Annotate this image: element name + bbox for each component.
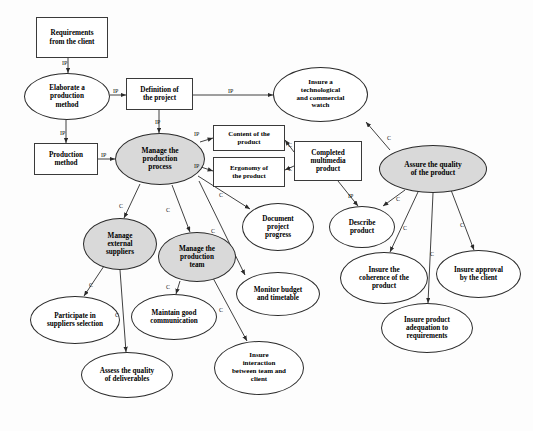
edge-label-manage-process-to-document-progress: C <box>219 192 223 198</box>
node-label: Monitor budget and timetable <box>251 286 305 302</box>
edge-manage-process-to-manage-team <box>172 185 190 232</box>
node-manage-suppliers[interactable]: Manage external suppliers <box>83 218 157 270</box>
node-maintain-comm[interactable]: Maintain good communication <box>131 294 217 340</box>
node-describe-product[interactable]: Describe product <box>329 206 395 248</box>
node-content-product[interactable]: Content of the product <box>213 125 285 151</box>
node-requirements[interactable]: Requirements from the client <box>36 17 108 58</box>
edge-label-production-method-to-manage-process: IP <box>101 152 106 158</box>
node-label: Insure a technological and commercial wa… <box>294 79 348 110</box>
edge-label-manage-process-to-manage-suppliers: C <box>119 203 123 209</box>
node-label: Manage the production process <box>138 147 181 172</box>
diagram-canvas: Requirements from the clientElaborate a … <box>0 0 533 431</box>
edge-assure-quality-to-insure-approval <box>451 190 474 250</box>
edge-label-definition-to-insure-watch: IP <box>228 88 233 94</box>
node-elaborate[interactable]: Elaborate a production method <box>24 73 110 120</box>
edge-label-manage-team-to-maintain-comm: C <box>166 284 170 290</box>
edge-manage-process-to-ergonomy-product <box>201 167 213 171</box>
node-label: Insure interaction between team and clie… <box>229 352 289 383</box>
node-assure-quality[interactable]: Assure the quality of the product <box>379 145 487 193</box>
node-label: Assess the quality of deliverables <box>97 367 157 383</box>
edge-label-assure-quality-to-describe-product: C <box>396 196 400 202</box>
node-insure-adequation[interactable]: Insure product adequation to requirement… <box>381 303 473 353</box>
edge-assure-quality-to-describe-product <box>383 190 405 206</box>
edge-label-manage-process-to-ergonomy-product: IP <box>194 163 199 169</box>
node-completed-product[interactable]: Completed multimedia product <box>294 141 362 181</box>
node-manage-team[interactable]: Manage the production team <box>158 232 236 282</box>
edge-label-manage-team-to-insure-interaction: C <box>219 307 223 313</box>
edge-label-assure-quality-to-insure-watch: C <box>387 135 391 141</box>
edge-label-manage-suppliers-to-assess-quality: C <box>115 312 119 318</box>
node-label: Content of the product <box>225 130 273 145</box>
node-production-method[interactable]: Production method <box>34 143 98 175</box>
node-label: Production method <box>46 151 86 167</box>
node-insure-interaction[interactable]: Insure interaction between team and clie… <box>214 341 304 395</box>
node-label: Insure the coherence of the product <box>356 266 412 290</box>
node-label: Ergonomy of the product <box>227 164 271 179</box>
edge-label-requirements-to-elaborate: IP <box>62 60 67 66</box>
node-insure-approval[interactable]: Insure approval by the client <box>436 250 521 298</box>
edge-manage-suppliers-to-assess-quality <box>120 270 126 352</box>
node-label: Definition of the project <box>137 86 182 102</box>
node-label: Completed multimedia product <box>307 149 348 173</box>
edge-label-manage-process-to-manage-team: C <box>166 207 170 213</box>
edge-manage-process-to-manage-suppliers <box>124 184 140 218</box>
node-label: Insure approval by the client <box>451 266 506 282</box>
edge-label-assure-quality-to-insure-approval: C <box>460 222 464 228</box>
edge-label-elaborate-to-production-method: IP <box>60 130 65 136</box>
node-definition[interactable]: Definition of the project <box>126 78 193 110</box>
node-participate[interactable]: Participate in suppliers selection <box>30 296 120 344</box>
node-ergonomy-product[interactable]: Ergonomy of the product <box>213 157 285 187</box>
node-assess-quality[interactable]: Assess the quality of deliverables <box>81 352 173 398</box>
node-manage-process[interactable]: Manage the production process <box>115 133 205 185</box>
edge-label-elaborate-to-definition: IP <box>113 88 118 94</box>
node-label: Insure product adequation to requirement… <box>401 316 453 340</box>
edge-label-assure-quality-to-insure-adequation: C <box>430 251 434 257</box>
edge-label-completed-product-to-describe-product: IP <box>348 193 353 199</box>
node-label: Manage external suppliers <box>103 232 137 256</box>
node-document-progress[interactable]: Document project progress <box>242 203 314 251</box>
edge-assure-quality-to-insure-adequation <box>428 193 433 303</box>
node-label: Document project progress <box>259 215 297 239</box>
edge-label-manage-process-to-monitor-budget: C <box>211 228 215 234</box>
node-insure-watch[interactable]: Insure a technological and commercial wa… <box>273 67 368 122</box>
node-monitor-budget[interactable]: Monitor budget and timetable <box>236 272 320 316</box>
node-label: Requirements from the client <box>47 29 98 45</box>
edge-label-manage-process-to-content-product: IP <box>194 131 199 137</box>
node-label: Participate in suppliers selection <box>44 312 106 328</box>
edge-label-assure-quality-to-insure-coherence: C <box>403 225 407 231</box>
edge-label-completed-product-to-ergonomy-product: C <box>288 166 292 172</box>
edge-label-completed-product-to-content-product: C <box>288 142 292 148</box>
edge-manage-team-to-maintain-comm <box>176 281 180 294</box>
edge-label-definition-to-manage-process: IP <box>155 119 160 125</box>
node-label: Maintain good communication <box>147 309 201 325</box>
node-label: Describe product <box>346 219 379 235</box>
edge-manage-suppliers-to-participate <box>84 266 104 296</box>
node-label: Elaborate a production method <box>46 84 88 108</box>
edge-manage-process-to-content-product <box>200 138 213 142</box>
node-label: Assure the quality of the product <box>401 161 464 178</box>
node-label: Manage the production team <box>176 245 218 269</box>
node-insure-coherence[interactable]: Insure the coherence of the product <box>340 252 428 304</box>
edge-label-manage-suppliers-to-participate: C <box>89 282 93 288</box>
